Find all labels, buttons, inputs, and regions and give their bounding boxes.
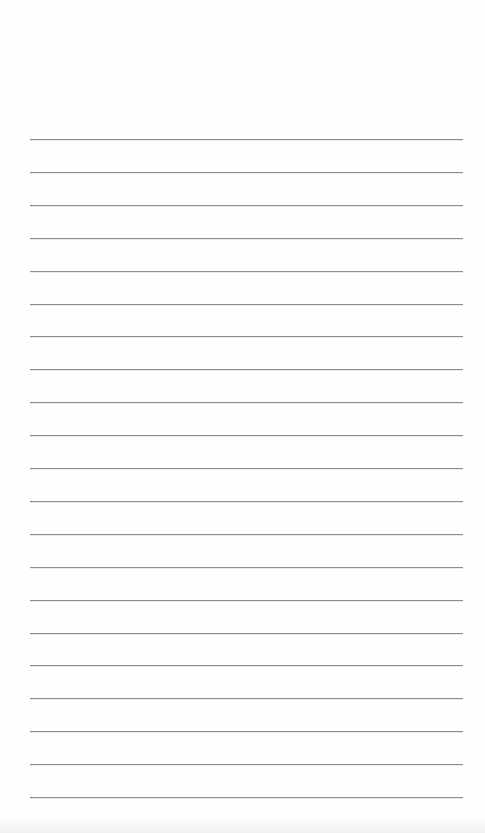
rule-line <box>30 698 463 699</box>
page-bottom-shadow <box>0 819 485 833</box>
rule-line <box>30 567 463 568</box>
rule-line <box>30 238 463 239</box>
rule-line <box>30 600 463 601</box>
rule-line <box>30 369 463 370</box>
rule-line <box>30 435 463 436</box>
rule-line <box>30 304 463 305</box>
lined-paper-page <box>0 0 485 833</box>
rule-line <box>30 336 463 337</box>
rule-line <box>30 271 463 272</box>
rule-line <box>30 633 463 634</box>
rule-line <box>30 501 463 502</box>
rule-line <box>30 139 463 140</box>
ruled-lines-area <box>30 0 463 833</box>
rule-line <box>30 665 463 666</box>
rule-line <box>30 172 463 173</box>
rule-line <box>30 468 463 469</box>
rule-line <box>30 534 463 535</box>
rule-line <box>30 205 463 206</box>
rule-line <box>30 764 463 765</box>
rule-line <box>30 731 463 732</box>
rule-line <box>30 797 463 798</box>
rule-line <box>30 402 463 403</box>
